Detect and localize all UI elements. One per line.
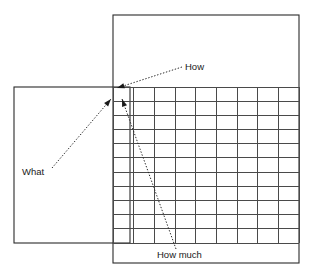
diagram-background — [0, 0, 312, 273]
qfd-diagram-svg: How What How much — [0, 0, 312, 273]
qfd-diagram-canvas: How What How much — [0, 0, 312, 273]
label-what: What — [22, 166, 45, 177]
label-how-much: How much — [157, 249, 202, 260]
label-how: How — [185, 61, 204, 72]
